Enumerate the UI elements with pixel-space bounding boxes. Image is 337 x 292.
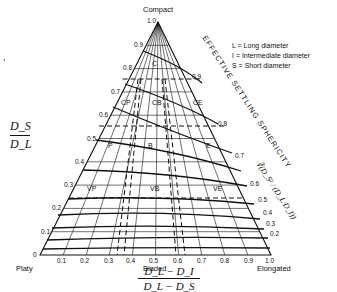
bottom-tick-10: 1.0: [265, 257, 274, 264]
legend-intermediate: I = Intermediate diameter: [232, 51, 310, 61]
left-tick-10: 1.0: [147, 17, 156, 24]
right-tick-08: 0.8: [218, 120, 227, 127]
region-cp: CP: [121, 99, 131, 106]
left-tick-2: 0.2: [52, 204, 61, 211]
bottom-tick-2: 0.2: [80, 257, 89, 264]
right-tick-06: 0.6: [250, 180, 259, 187]
bottom-tick-5: 0.5: [149, 257, 158, 264]
right-tick-07: 0.7: [235, 152, 244, 159]
bottom-tick-8: 0.8: [220, 257, 229, 264]
right-tick-05: 0.5: [258, 196, 267, 203]
region-vp: VP: [87, 185, 96, 192]
stray-mark: ,: [3, 52, 6, 62]
region-ve: VE: [213, 185, 222, 192]
bottom-tick-3: 0.3: [104, 257, 113, 264]
vertex-compact-label: Compact: [143, 5, 173, 14]
legend: L = Long diameter I = Intermediate diame…: [232, 41, 310, 71]
left-tick-5: 0.5: [87, 135, 96, 142]
bottom-tick-6: 0.6: [173, 257, 182, 264]
vertex-platy-label: Platy: [16, 264, 33, 273]
left-tick-8: 0.8: [123, 64, 132, 71]
bottom-tick-9: 0.9: [244, 257, 253, 264]
left-axis-label: D_S D_L: [10, 119, 30, 152]
legend-long: L = Long diameter: [232, 41, 310, 51]
left-tick-1: 0.1: [41, 228, 50, 235]
left-tick-3: 0.3: [64, 181, 73, 188]
region-cb: CB: [152, 99, 162, 106]
left-tick-6: 0.6: [99, 111, 108, 118]
right-tick-02: 0.2: [270, 230, 279, 237]
left-tick-4: 0.4: [75, 158, 84, 165]
left-tick-7: 0.7: [111, 88, 120, 95]
dl-label: D_L: [10, 137, 30, 152]
region-p: P: [108, 142, 113, 149]
ds-label: D_S: [10, 119, 30, 134]
right-tick-04: 0.4: [263, 209, 272, 216]
vertex-elongated-label: Elongated: [257, 264, 291, 273]
left-tick-0: 0: [33, 251, 37, 258]
right-tick-09: 0.9: [192, 73, 201, 80]
region-c: C: [152, 60, 157, 67]
bottom-tick-1: 0.1: [57, 257, 66, 264]
bottom-tick-7: 0.7: [197, 257, 206, 264]
right-tick-03: 0.3: [266, 220, 275, 227]
region-e: E: [206, 142, 211, 149]
left-tick-9: 0.9: [134, 41, 143, 48]
region-vb: VB: [150, 185, 159, 192]
region-b: B: [148, 142, 153, 149]
legend-short: S = Short diameter: [232, 61, 310, 71]
region-ce: CE: [193, 99, 203, 106]
bottom-tick-4: 0.4: [126, 257, 135, 264]
bottom-axis-label: D_L − D_I D_L − D_S: [138, 265, 200, 292]
